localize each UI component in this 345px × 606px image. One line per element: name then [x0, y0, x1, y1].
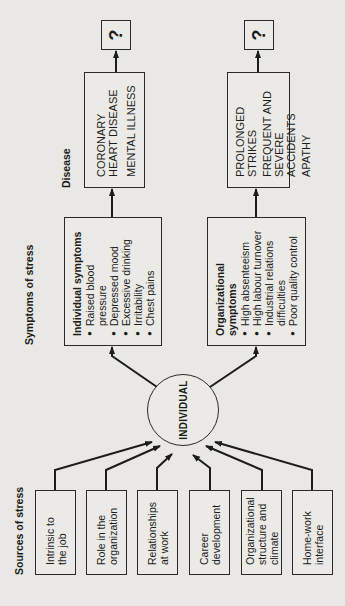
organizational-symptoms-title-2: symptoms	[226, 224, 238, 336]
source-career-development: Careerdevelopment	[189, 490, 230, 575]
source-relationships-at-work: Relationshipsat work	[137, 490, 178, 575]
source-role-in-organization: Role in theorganization	[86, 490, 127, 575]
organizational-outcome-box: PROLONGED STRIKES FREQUENT AND SEVERE AC…	[227, 72, 290, 188]
symptoms-of-stress-label: Symptoms of stress	[23, 245, 35, 345]
symptom-item: Raised blood pressure	[84, 224, 108, 336]
outcome-item: PROLONGED STRIKES	[234, 79, 258, 177]
unknown-outcome-individual: ?	[101, 20, 131, 50]
symptom-item: Irritability	[132, 224, 144, 336]
symptom-item: Depressed mood	[108, 224, 120, 336]
symptom-item: Excessive drinking	[120, 224, 132, 336]
symptom-item: High labour turnover	[251, 224, 263, 336]
symptom-item: Poor quality control	[287, 224, 299, 336]
symptom-item: Industrial relations difficulties	[263, 224, 287, 336]
unknown-outcome-organizational: ?	[244, 20, 274, 50]
individual-symptoms-box: Individual symptoms Raised blood pressur…	[64, 217, 162, 346]
source-intrinsic-to-job: Intrinsic tothe job	[35, 490, 76, 575]
disease-item: MENTAL ILLNESS	[125, 79, 137, 177]
individual-disease-box: CORONARY HEART DISEASE MENTAL ILLNESS	[84, 72, 145, 188]
symptom-item: High absenteeism	[239, 224, 251, 336]
sources-of-stress-label: Sources of stress	[13, 487, 25, 575]
symptom-item: Chest pains	[144, 224, 156, 336]
individual-node: INDIVIDUAL	[147, 374, 219, 446]
outcome-item: FREQUENT AND SEVERE ACCIDENTS	[261, 79, 297, 177]
source-organizational-structure: Organizationalstructure andclimate	[241, 490, 282, 575]
organizational-symptoms-title-1: Organizational	[214, 224, 226, 336]
stress-model-diagram: Sources of stress Symptoms of stress Dis…	[0, 0, 345, 606]
source-home-work-interface: Home-workinterface	[292, 490, 333, 575]
organizational-symptoms-box: Organizational symptoms High absenteeism…	[207, 217, 306, 346]
disease-label: Disease	[60, 148, 72, 188]
individual-symptoms-title: Individual symptoms	[71, 224, 83, 336]
disease-item: CORONARY HEART DISEASE	[95, 79, 119, 177]
outcome-item: APATHY	[300, 79, 312, 177]
